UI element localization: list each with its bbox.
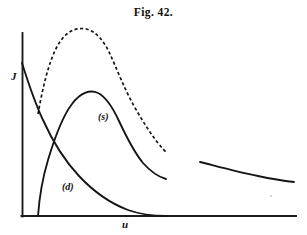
x-axis-label: u xyxy=(122,218,128,230)
series-d-label: (d) xyxy=(62,181,74,193)
y-axis-label: J xyxy=(10,70,17,82)
plot-canvas: J u (s) (d) xyxy=(0,0,307,235)
series-s-label: (s) xyxy=(98,111,109,123)
scan-speck-icon xyxy=(270,195,271,196)
tail-curve-segment xyxy=(200,162,294,182)
figure-container: Fig. 42. J u (s) (d) xyxy=(0,0,307,235)
